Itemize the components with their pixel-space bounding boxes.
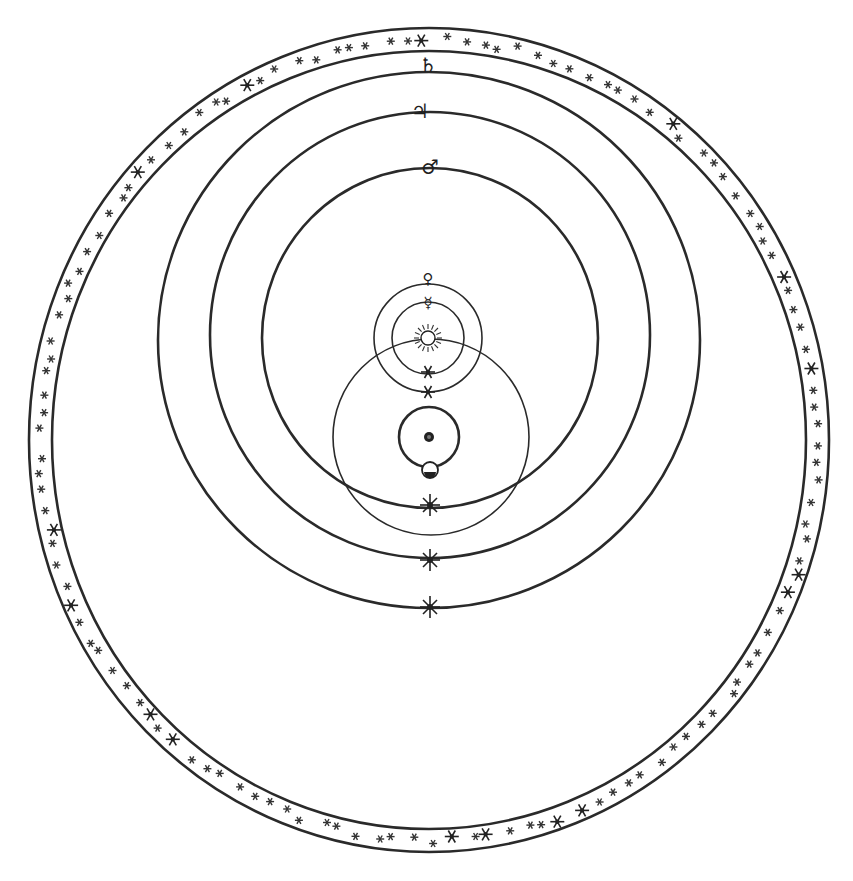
band-star-icon: [195, 109, 203, 116]
star-icon: [420, 596, 440, 618]
band-star-icon: [295, 817, 303, 824]
band-star-icon: [802, 346, 810, 353]
band-star-icon: [809, 387, 817, 394]
band-star-icon: [614, 87, 622, 94]
band-star-icon: [105, 210, 113, 217]
band-star-icon: [815, 476, 823, 483]
band-star-icon: [124, 184, 132, 191]
band-star-icon: [792, 569, 806, 581]
band-star-icon: [812, 459, 820, 466]
band-star-icon: [804, 363, 818, 375]
band-star-icon: [795, 557, 803, 564]
band-star-icon: [166, 733, 180, 745]
band-star-icon: [537, 821, 545, 828]
band-star-icon: [585, 74, 593, 81]
band-star-icon: [674, 135, 682, 142]
band-star-icon: [534, 52, 542, 59]
band-star-icon: [429, 840, 437, 847]
band-star-icon: [746, 210, 754, 217]
band-star-icon: [814, 442, 822, 449]
band-star-icon: [94, 647, 102, 654]
venus-icon: ♀: [423, 270, 434, 288]
band-star-icon: [270, 66, 278, 73]
band-star-icon: [658, 759, 666, 766]
band-star-icon: [165, 142, 173, 149]
band-star-icon: [203, 765, 211, 772]
band-star-icon: [42, 367, 50, 374]
band-star-icon: [55, 311, 63, 318]
band-star-icon: [410, 834, 418, 841]
tychonic-diagram: ♄ ♃ ♂ ♀ ☿: [0, 0, 853, 881]
band-star-icon: [49, 540, 57, 547]
moon-icon: [422, 462, 438, 478]
star-icon: [420, 549, 440, 571]
band-star-icon: [700, 150, 708, 157]
band-star-icon: [698, 721, 706, 728]
band-star-icon: [332, 823, 340, 830]
band-star-icon: [345, 44, 353, 51]
band-star-icon: [669, 744, 677, 751]
band-star-icon: [334, 46, 342, 53]
band-star-icon: [709, 710, 717, 717]
band-star-icon: [759, 238, 767, 245]
band-star-icon: [745, 661, 753, 668]
band-star-icon: [76, 268, 84, 275]
band-star-icon: [801, 521, 809, 528]
band-star-icon: [756, 223, 764, 230]
band-star-icon: [506, 827, 514, 834]
band-star-icon: [109, 667, 117, 674]
band-star-icon: [803, 535, 811, 542]
band-star-icon: [710, 159, 718, 166]
band-star-icon: [266, 798, 274, 805]
band-star-icon: [814, 420, 822, 427]
band-star-icon: [732, 192, 740, 199]
band-star-icon: [216, 770, 224, 777]
band-star-icon: [40, 409, 48, 416]
band-star-icon: [52, 562, 60, 569]
band-star-icon: [565, 65, 573, 72]
band-star-icon: [212, 99, 220, 106]
band-star-icon: [64, 599, 78, 611]
band-star-icon: [95, 232, 103, 239]
band-star-icon: [240, 79, 254, 91]
band-star-icon: [514, 43, 522, 50]
band-star-icon: [40, 392, 48, 399]
band-star-icon: [550, 816, 564, 828]
band-star-icon: [445, 831, 459, 843]
band-star-icon: [251, 793, 259, 800]
band-star-icon: [781, 586, 795, 598]
band-star-icon: [323, 819, 331, 826]
band-star-icon: [719, 173, 727, 180]
band-star-icon: [472, 833, 480, 840]
band-star-icon: [682, 733, 690, 740]
band-star-icon: [443, 33, 451, 40]
band-star-icon: [387, 38, 395, 45]
band-star-icon: [47, 338, 55, 345]
band-star-icon: [754, 649, 762, 656]
band-star-icon: [361, 42, 369, 49]
band-star-icon: [123, 682, 131, 689]
band-star-icon: [625, 779, 633, 786]
band-star-icon: [636, 771, 644, 778]
band-star-icon: [810, 404, 818, 411]
band-star-icon: [807, 499, 815, 506]
band-star-icon: [777, 271, 791, 283]
band-star-icon: [414, 35, 428, 47]
band-star-icon: [733, 679, 741, 686]
jupiter-icon: ♃: [411, 99, 429, 123]
band-star-icon: [147, 156, 155, 163]
band-star-icon: [180, 128, 188, 135]
band-star-icon: [35, 470, 43, 477]
star-icon: [421, 386, 435, 398]
star-icon: [421, 366, 435, 378]
band-star-icon: [37, 486, 45, 493]
band-star-icon: [154, 725, 162, 732]
band-star-icon: [646, 109, 654, 116]
band-star-icon: [87, 640, 95, 647]
band-star-icon: [63, 583, 71, 590]
band-star-icon: [526, 822, 534, 829]
band-star-icon: [41, 507, 49, 514]
band-star-icon: [295, 57, 303, 64]
band-star-icon: [376, 836, 384, 843]
band-star-icon: [482, 42, 490, 49]
